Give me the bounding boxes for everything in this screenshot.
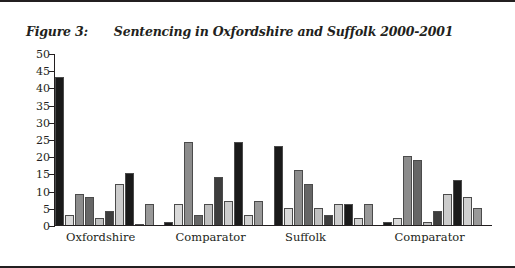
y-axis-tick-mark [49, 88, 55, 89]
y-axis-tick-mark [49, 174, 55, 175]
y-axis-tick-mark [49, 192, 55, 193]
bar [184, 142, 193, 225]
chart-plot-area: 05101520253035404550 OxfordshireComparat… [26, 54, 492, 234]
bar [204, 204, 213, 225]
bar [324, 215, 333, 225]
bar [314, 208, 323, 225]
y-axis-tick-mark [49, 226, 55, 227]
bar [85, 197, 94, 225]
bar [443, 194, 452, 225]
figure-container: Figure 3: Sentencing in Oxfordshire and … [0, 0, 515, 268]
bar [433, 211, 442, 225]
bar-series-layer [55, 54, 492, 225]
y-axis-tick-mark [49, 140, 55, 141]
x-axis-category-label: Oxfordshire [54, 230, 164, 244]
bar [234, 142, 243, 225]
bar [125, 173, 134, 225]
bar [55, 77, 64, 225]
y-axis-tick-label: 40 [36, 83, 50, 94]
bar [174, 204, 183, 225]
bar [383, 222, 392, 225]
bar [65, 215, 74, 225]
bar [403, 156, 412, 225]
bar [254, 201, 263, 225]
x-axis-category-label: Suffolk [273, 230, 383, 244]
y-axis-tick-label: 25 [36, 135, 50, 146]
y-axis-tick-label: 45 [36, 66, 50, 77]
bar [423, 222, 432, 225]
y-axis-tick-mark [49, 123, 55, 124]
bar [224, 201, 233, 225]
bar [105, 211, 114, 225]
bar [334, 204, 343, 225]
y-axis-tick-label: 30 [36, 117, 50, 128]
y-axis-tick-label: 20 [36, 152, 50, 163]
bar [453, 180, 462, 225]
y-axis-tick-label: 50 [36, 49, 50, 60]
bar [115, 184, 124, 225]
y-axis-tick-mark [49, 106, 55, 107]
bar [214, 177, 223, 225]
y-axis-tick-mark [49, 71, 55, 72]
bar-group [274, 54, 383, 225]
bar [304, 184, 313, 225]
bar-group [164, 54, 273, 225]
bar [294, 170, 303, 225]
y-axis-tick-mark [49, 209, 55, 210]
bar-group [383, 54, 492, 225]
bar [274, 146, 283, 225]
bar [344, 204, 353, 225]
bar [393, 218, 402, 225]
x-axis-category-label: Comparator [383, 230, 493, 244]
bar [194, 215, 203, 225]
y-axis-tick-mark [49, 157, 55, 158]
bar-group [55, 54, 164, 225]
figure-number-label: Figure 3: [26, 24, 88, 39]
y-axis-tick-mark [49, 54, 55, 55]
bar [135, 224, 144, 225]
x-axis-category-label: Comparator [164, 230, 274, 244]
bar [95, 218, 104, 225]
bar [364, 204, 373, 225]
bar [354, 218, 363, 225]
bar [164, 222, 173, 225]
page-title: Sentencing in Oxfordshire and Suffolk 20… [114, 24, 453, 39]
bar [463, 197, 472, 225]
bar [284, 208, 293, 225]
y-axis-tick-label: 15 [36, 169, 50, 180]
y-axis-tick-label: 35 [36, 100, 50, 111]
y-axis-tick-labels: 05101520253035404550 [26, 54, 50, 226]
bar [145, 204, 154, 225]
bar [75, 194, 84, 225]
bar [473, 208, 482, 225]
y-axis-tick-label: 10 [36, 186, 50, 197]
x-axis-tick-labels: OxfordshireComparatorSuffolkComparator [54, 230, 492, 244]
bar [413, 160, 422, 225]
chart-axes [54, 54, 492, 226]
figure-title-row: Figure 3: Sentencing in Oxfordshire and … [26, 24, 453, 39]
bar [244, 215, 253, 225]
